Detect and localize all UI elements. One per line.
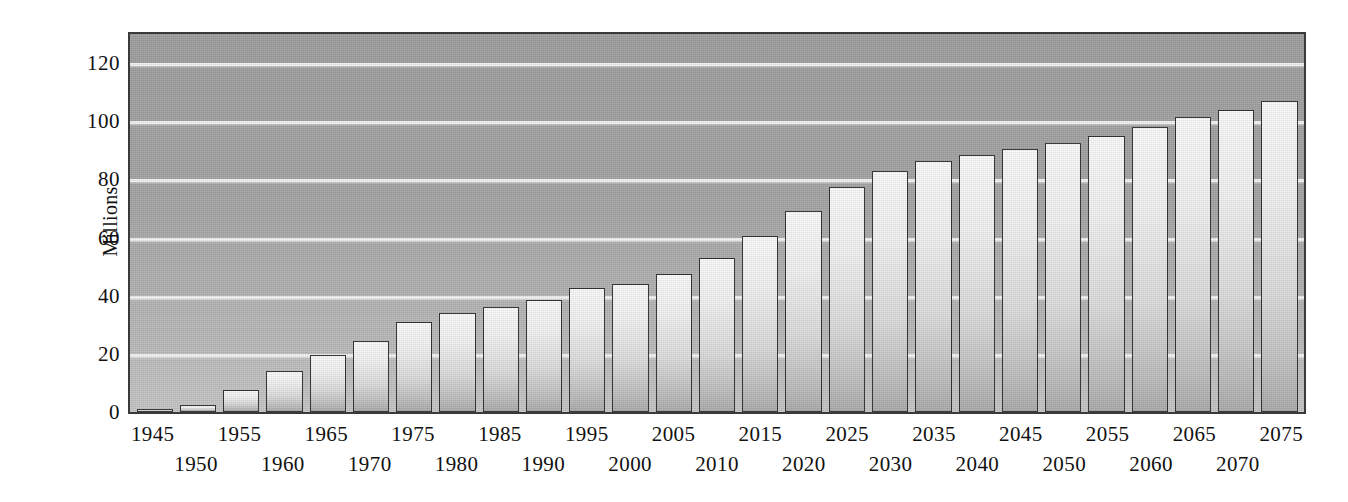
x-tick-label: 2050 [1046,418,1082,502]
x-tick-label: 2040 [959,418,995,502]
bar[interactable] [1002,149,1038,412]
y-tick-label: 100 [87,109,120,134]
bar[interactable] [439,313,475,412]
x-tick-label-text: 1965 [305,422,349,447]
x-tick-label: 2010 [699,418,735,502]
x-tick-label: 1955 [221,418,257,502]
x-tick-label: 1960 [265,418,301,502]
y-tick-label: 120 [87,51,120,76]
x-tick-label-text: 1945 [131,422,175,447]
x-tick-label-text: 1970 [348,452,392,477]
bar-series [130,34,1304,412]
y-tick-label: 80 [98,167,120,192]
x-tick-label: 1990 [525,418,561,502]
x-tick-label-text: 1960 [261,452,305,477]
x-tick-label-text: 1980 [435,452,479,477]
x-tick-label-text: 2070 [1216,452,1260,477]
x-tick-label: 2060 [1133,418,1169,502]
x-tick-label: 2025 [829,418,865,502]
y-tick-label: 0 [109,400,120,425]
x-tick-label-text: 2005 [652,422,696,447]
x-tick-label: 2005 [655,418,691,502]
x-axis-tick-labels: 1945195019551960196519701975198019851990… [128,418,1306,502]
bar[interactable] [310,355,346,412]
x-tick-label-text: 2075 [1259,422,1303,447]
bar[interactable] [1261,101,1297,412]
x-tick-label: 2015 [742,418,778,502]
bar[interactable] [569,288,605,412]
bar[interactable] [612,284,648,412]
x-tick-label-text: 2055 [1086,422,1130,447]
x-tick-label: 1995 [569,418,605,502]
bar[interactable] [223,390,259,412]
bar[interactable] [1175,117,1211,412]
x-tick-label: 2045 [1003,418,1039,502]
bar[interactable] [266,371,302,412]
x-tick-label: 2035 [916,418,952,502]
x-tick-label-text: 2060 [1129,452,1173,477]
x-tick-label-text: 1985 [478,422,522,447]
x-tick-label: 1975 [395,418,431,502]
bar[interactable] [180,405,216,412]
x-tick-label-text: 2065 [1173,422,1217,447]
x-tick-label: 1945 [135,418,171,502]
x-tick-label-text: 2030 [869,452,913,477]
x-tick-label-text: 1975 [391,422,435,447]
x-tick-label: 2065 [1176,418,1212,502]
bar[interactable] [483,307,519,412]
bar[interactable] [1045,143,1081,412]
x-tick-label: 1985 [482,418,518,502]
bar[interactable] [1132,127,1168,412]
chart-container: Millions 120100806040200 194519501955196… [0,0,1348,502]
x-tick-label: 1970 [352,418,388,502]
bar[interactable] [526,300,562,412]
bar[interactable] [1218,110,1254,412]
x-tick-label-text: 2050 [1042,452,1086,477]
x-tick-label-text: 1955 [218,422,262,447]
x-tick-label-text: 2010 [695,452,739,477]
y-tick-label: 60 [98,225,120,250]
x-tick-label-text: 2020 [782,452,826,477]
x-tick-label: 2070 [1220,418,1256,502]
bar[interactable] [656,274,692,412]
bar[interactable] [742,236,778,412]
bar[interactable] [1088,136,1124,412]
x-tick-label: 1950 [178,418,214,502]
x-tick-label: 2055 [1089,418,1125,502]
x-tick-label-text: 2040 [956,452,1000,477]
plot-area [128,32,1306,414]
y-tick-label: 40 [98,283,120,308]
y-tick-label: 20 [98,341,120,366]
x-tick-label: 2030 [872,418,908,502]
x-tick-label-text: 2045 [999,422,1043,447]
bar[interactable] [829,187,865,412]
x-tick-label: 2020 [786,418,822,502]
bar[interactable] [785,211,821,412]
bar[interactable] [699,258,735,412]
y-axis-tick-labels: 120100806040200 [58,0,120,502]
x-tick-label: 1980 [438,418,474,502]
x-tick-label: 2000 [612,418,648,502]
x-tick-label-text: 2025 [825,422,869,447]
x-tick-label-text: 2015 [739,422,783,447]
bar[interactable] [872,171,908,412]
x-tick-label-text: 1990 [522,452,566,477]
bar[interactable] [396,322,432,412]
bar[interactable] [915,161,951,413]
bar[interactable] [353,341,389,412]
x-tick-label-text: 1950 [174,452,218,477]
x-tick-label: 1965 [308,418,344,502]
bar[interactable] [959,155,995,412]
x-tick-label-text: 2000 [608,452,652,477]
x-tick-label: 2075 [1263,418,1299,502]
x-tick-label-text: 1995 [565,422,609,447]
bar[interactable] [137,409,173,412]
x-tick-label-text: 2035 [912,422,956,447]
